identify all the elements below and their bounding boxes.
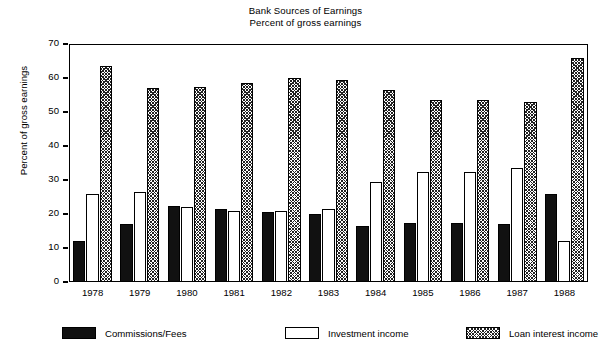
bar [86,194,98,282]
bar [241,83,253,282]
bar-group [262,44,301,282]
x-axis-tick-label: 1980 [163,287,210,298]
bar [336,80,348,282]
bar-group [309,44,348,282]
bar [147,88,159,282]
bar-group [215,44,254,282]
y-axis-tick-mark [63,111,68,112]
bar [100,66,112,282]
chart-title: Bank Sources of Earnings [0,5,611,17]
bar [451,223,463,283]
bar-group [404,44,443,282]
y-axis-tick-label: 0 [0,275,59,286]
bar [511,168,523,282]
y-axis-tick-mark [63,213,68,214]
chart-legend: Commissions/FeesInvestment incomeLoan in… [0,325,611,347]
y-axis-tick-label: 20 [0,207,59,218]
bar [430,100,442,282]
x-axis-tick-label: 1979 [116,287,163,298]
chart-title-block: Bank Sources of Earnings Percent of gros… [0,5,611,29]
y-axis-tick-label: 10 [0,241,59,252]
bar-group [498,44,537,282]
bar-group [120,44,159,282]
bar [370,182,382,282]
bar [194,87,206,283]
x-axis-tick-label: 1985 [399,287,446,298]
y-axis-tick-mark [63,145,68,146]
bar [134,192,146,282]
bar [181,207,193,282]
legend-label: Commissions/Fees [105,328,187,339]
legend-label: Investment income [328,328,409,339]
bar-group [73,44,112,282]
bar [288,78,300,282]
bar [73,241,85,282]
bar [309,214,321,282]
bar [275,211,287,282]
bar [477,100,489,282]
bar [383,90,395,282]
y-axis-tick-label: 70 [0,37,59,48]
bar [215,209,227,282]
x-axis-tick-label: 1982 [258,287,305,298]
bank-sources-of-earnings-chart: Bank Sources of Earnings Percent of gros… [0,0,611,353]
bar [356,226,368,282]
x-axis-tick-label: 1981 [211,287,258,298]
bar [120,224,132,282]
legend-item[interactable]: Investment income [285,325,409,341]
bar [545,194,557,282]
legend-swatch-icon [285,327,319,339]
bar [498,224,510,282]
chart-subtitle: Percent of gross earnings [0,17,611,29]
legend-swatch-icon [62,327,96,339]
y-axis-tick-mark [63,247,68,248]
x-axis-tick-label: 1983 [305,287,352,298]
legend-item[interactable]: Loan interest income [466,325,598,341]
bar [464,172,476,283]
bar-group [451,44,490,282]
bar [228,211,240,282]
bar [571,58,583,282]
bar-group [356,44,395,282]
x-axis-tick-label: 1984 [352,287,399,298]
y-axis-tick-mark [63,43,68,44]
bars-layer [69,44,588,282]
bar [322,209,334,282]
y-axis-tick-label: 30 [0,173,59,184]
x-axis-tick-label: 1987 [494,287,541,298]
y-axis-tick-mark [63,179,68,180]
x-axis-tick-label: 1988 [541,287,588,298]
bar [417,172,429,283]
y-axis-tick-label: 40 [0,139,59,150]
bar [558,241,570,282]
x-axis-tick-label: 1986 [446,287,493,298]
y-axis-tick-mark [63,281,68,282]
legend-label: Loan interest income [509,328,598,339]
bar [524,102,536,282]
bar [168,206,180,283]
bar-group [168,44,207,282]
legend-item[interactable]: Commissions/Fees [62,325,187,341]
y-axis-tick-label: 60 [0,71,59,82]
legend-swatch-icon [466,327,500,339]
bar [404,223,416,283]
bar-group [545,44,584,282]
y-axis-title: Percent of gross earnings [18,21,29,221]
y-axis-tick-label: 50 [0,105,59,116]
x-axis-tick-label: 1978 [69,287,116,298]
bar [262,212,274,282]
y-axis-tick-mark [63,77,68,78]
